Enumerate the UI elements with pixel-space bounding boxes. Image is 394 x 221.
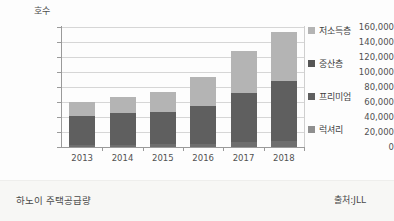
legend-label: 럭셔리 xyxy=(319,123,343,136)
bar-segment xyxy=(110,145,136,147)
gridline xyxy=(62,72,304,73)
x-axis-tick-mark xyxy=(102,147,103,151)
caption-title: 하노이 주택공급량 xyxy=(16,193,91,207)
bar-segment xyxy=(69,102,95,116)
caption-bar: 하노이 주택공급량 출처:JLL xyxy=(0,180,394,221)
bar-stack xyxy=(190,77,216,148)
legend-swatch-icon xyxy=(308,27,315,34)
plot-area xyxy=(62,27,304,147)
x-axis-tick-mark xyxy=(183,147,184,151)
bar-segment xyxy=(271,32,297,81)
x-axis-tick-label: 2015 xyxy=(152,153,174,163)
bar-segment xyxy=(271,141,297,147)
legend-label: 중산층 xyxy=(319,57,343,70)
chart-page: 호수 020,00040,00060,00080,000100,000120,0… xyxy=(0,0,394,221)
caption-source: 출처:JLL xyxy=(334,193,366,206)
bar-segment xyxy=(150,92,176,112)
legend-item: 프리미엄 xyxy=(308,90,351,103)
legend-label: 저소득층 xyxy=(319,24,351,37)
bar-stack xyxy=(69,102,95,147)
bar-segment xyxy=(231,51,257,93)
legend-swatch-icon xyxy=(308,126,315,133)
bar-segment xyxy=(190,106,216,144)
bar-stack xyxy=(110,97,136,147)
x-axis-tick-label: 2014 xyxy=(112,153,134,163)
chart-legend: 저소득층중산층프리미엄럭셔리 xyxy=(308,24,394,150)
x-axis-tick-mark xyxy=(264,147,265,151)
gridline xyxy=(62,102,304,103)
legend-item: 저소득층 xyxy=(308,24,351,37)
legend-swatch-icon xyxy=(308,93,315,100)
bar-segment xyxy=(110,97,136,114)
gridline xyxy=(62,87,304,88)
x-axis-tick-mark xyxy=(304,147,305,151)
legend-swatch-icon xyxy=(308,60,315,67)
bar-segment xyxy=(231,93,257,142)
gridline xyxy=(62,117,304,118)
legend-item: 중산층 xyxy=(308,57,343,70)
bar-segment xyxy=(150,112,176,144)
x-axis-tick-mark xyxy=(223,147,224,151)
x-axis-tick-label: 2016 xyxy=(192,153,214,163)
x-axis-tick-label: 2013 xyxy=(71,153,93,163)
x-axis-tick-label: 2018 xyxy=(273,153,295,163)
bar-stack xyxy=(271,32,297,147)
y-axis-title: 호수 xyxy=(34,4,50,17)
x-axis-tick-label: 2017 xyxy=(233,153,255,163)
bar-stack xyxy=(150,92,176,147)
gridline xyxy=(62,57,304,58)
bar-segment xyxy=(190,77,216,106)
x-axis-tick-mark xyxy=(143,147,144,151)
bar-segment xyxy=(150,144,176,147)
bar-segment xyxy=(190,144,216,147)
gridline xyxy=(62,27,304,28)
plot-right-border xyxy=(304,26,305,148)
bar-segment xyxy=(271,81,297,141)
bar-segment xyxy=(69,116,95,145)
bar-stack xyxy=(231,51,257,147)
bar-segment xyxy=(69,145,95,147)
chart-figure: 호수 020,00040,00060,00080,000100,000120,0… xyxy=(0,0,394,180)
gridline xyxy=(62,42,304,43)
legend-item: 럭셔리 xyxy=(308,123,343,136)
bar-segment xyxy=(231,142,257,147)
legend-label: 프리미엄 xyxy=(319,90,351,103)
gridline xyxy=(62,132,304,133)
bar-segment xyxy=(110,113,136,145)
